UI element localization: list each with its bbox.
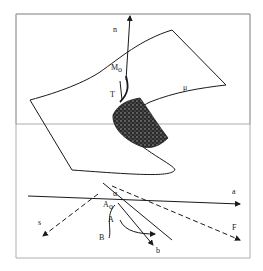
label-B: B bbox=[99, 233, 104, 242]
label-mu: μ bbox=[183, 83, 187, 92]
label-b: b bbox=[156, 246, 160, 255]
diagram-canvas: n M o T μ a s F A o A B b α bbox=[0, 0, 263, 271]
label-T: T bbox=[110, 90, 115, 99]
label-alpha: α bbox=[113, 189, 118, 198]
vector-F-dashed bbox=[112, 186, 240, 240]
axis-a bbox=[28, 196, 240, 204]
label-s: s bbox=[38, 218, 41, 227]
fold-shaded-region bbox=[113, 98, 168, 148]
normal-vector-n bbox=[126, 16, 130, 80]
vector-s-dashed bbox=[43, 194, 98, 236]
tangent-T bbox=[120, 81, 122, 100]
label-n: n bbox=[113, 25, 117, 34]
label-M0-sub: o bbox=[118, 65, 122, 74]
label-A: A bbox=[108, 215, 114, 224]
label-a: a bbox=[232, 187, 236, 196]
label-F: F bbox=[232, 223, 237, 232]
label-A0-sub: o bbox=[109, 202, 113, 211]
